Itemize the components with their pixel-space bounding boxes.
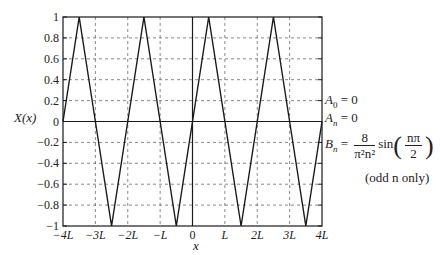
sin-arg-denominator: 2 bbox=[405, 146, 422, 161]
y-tick-label: 1 bbox=[53, 10, 59, 24]
sin-label: sin bbox=[378, 136, 393, 151]
right-paren: ) bbox=[425, 131, 434, 160]
x-tick-label: 3L bbox=[282, 228, 296, 242]
an-value: = 0 bbox=[337, 110, 357, 125]
sin-argument: nπ2 bbox=[405, 130, 422, 161]
x-tick-label: −2L bbox=[117, 228, 138, 242]
y-tick-label: 0.6 bbox=[44, 52, 59, 66]
bn-annotation: Bn = 8π²n²sin(nπ2) bbox=[325, 130, 434, 161]
bn-fraction: 8π²n² bbox=[354, 130, 375, 161]
y-tick-label: −0.2 bbox=[37, 135, 59, 149]
x-tick-label: −4L bbox=[53, 228, 74, 242]
y-tick-label: 0.8 bbox=[44, 31, 59, 45]
y-tick-label: −0.6 bbox=[37, 177, 59, 191]
y-tick-label: −0.8 bbox=[37, 198, 59, 212]
odd-n-note: (odd n only) bbox=[365, 170, 429, 185]
bn-symbol: B bbox=[325, 136, 333, 151]
x-tick-label: −L bbox=[153, 228, 168, 242]
x-tick-label: 4L bbox=[316, 228, 329, 242]
bn-note: (odd n only) bbox=[365, 170, 429, 186]
x-axis-label: x bbox=[192, 238, 199, 253]
x-tick-label: −3L bbox=[85, 228, 106, 242]
y-tick-label: 0.2 bbox=[44, 94, 59, 108]
an-annotation: An = 0 bbox=[325, 110, 358, 128]
an-symbol: A bbox=[325, 110, 333, 125]
triangle-wave-chart: −1−0.8−0.6−0.4−0.200.20.40.60.81−4L−3L−2… bbox=[0, 0, 440, 255]
x-tick-label: 2L bbox=[251, 228, 264, 242]
bn-numerator: 8 bbox=[354, 130, 375, 146]
bn-denominator: π²n² bbox=[354, 146, 375, 161]
y-tick-label: 0.4 bbox=[44, 73, 59, 87]
tick-labels: −1−0.8−0.6−0.4−0.200.20.40.60.81−4L−3L−2… bbox=[37, 10, 328, 242]
a0-symbol: A bbox=[325, 92, 333, 107]
y-tick-label: 0 bbox=[53, 115, 59, 129]
a0-value: = 0 bbox=[337, 92, 357, 107]
y-axis-label: X(x) bbox=[13, 110, 36, 125]
x-tick-label: L bbox=[221, 228, 229, 242]
sin-arg-numerator: nπ bbox=[405, 130, 422, 146]
bn-equals: = bbox=[337, 136, 351, 151]
y-tick-label: −0.4 bbox=[37, 156, 59, 170]
left-paren: ( bbox=[393, 131, 402, 160]
a0-annotation: A0 = 0 bbox=[325, 92, 358, 110]
